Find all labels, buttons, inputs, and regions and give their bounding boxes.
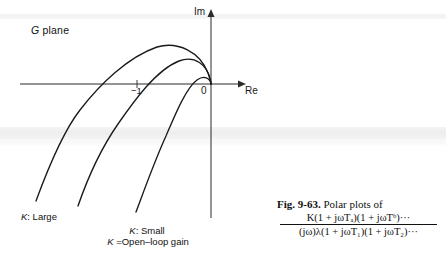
gain-definition-text: =Open–loop gain [114,236,189,247]
polar-curve-k-large [36,45,211,201]
formula-numerator: K(1 + jωTₐ)(1 + jωTᵇ)··· [305,212,413,224]
critical-point-label: −1 [131,86,142,96]
polar-curve-k-medium [78,59,211,206]
polar-curve-k-small [136,77,211,212]
k-small-text: : Small [136,225,165,236]
formula-denominator: (jω)λ(1 + jωT₁)(1 + jωT₂)··· [297,225,420,237]
caption-headline: Fig. 9-63. Polar plots of [277,198,442,210]
g-plane-word: plane [39,24,69,36]
imaginary-axis-arrowhead [208,9,215,17]
curve-annotation-k-large: K: Large [21,212,57,222]
k-large-text: : Large [27,211,57,222]
imaginary-axis-label: Im [194,7,205,18]
curve-annotation-k-small: K: Small [112,226,182,236]
figure-page: Im Re 0 −1 G plane K: Large K: Small K =… [0,0,446,264]
transfer-function-formula: K(1 + jωTₐ)(1 + jωTᵇ)··· (jω)λ(1 + jωT₁)… [277,212,440,237]
figure-number: Fig. 9-63. [277,198,321,210]
caption-text: Polar plots of [321,198,383,210]
origin-label: 0 [201,86,207,97]
real-axis-label: Re [245,86,258,97]
figure-caption: Fig. 9-63. Polar plots of K(1 + jωTₐ)(1 … [277,198,442,237]
g-plane-label: G plane [31,25,69,36]
gain-definition-label: K =Open–loop gain [93,237,203,247]
